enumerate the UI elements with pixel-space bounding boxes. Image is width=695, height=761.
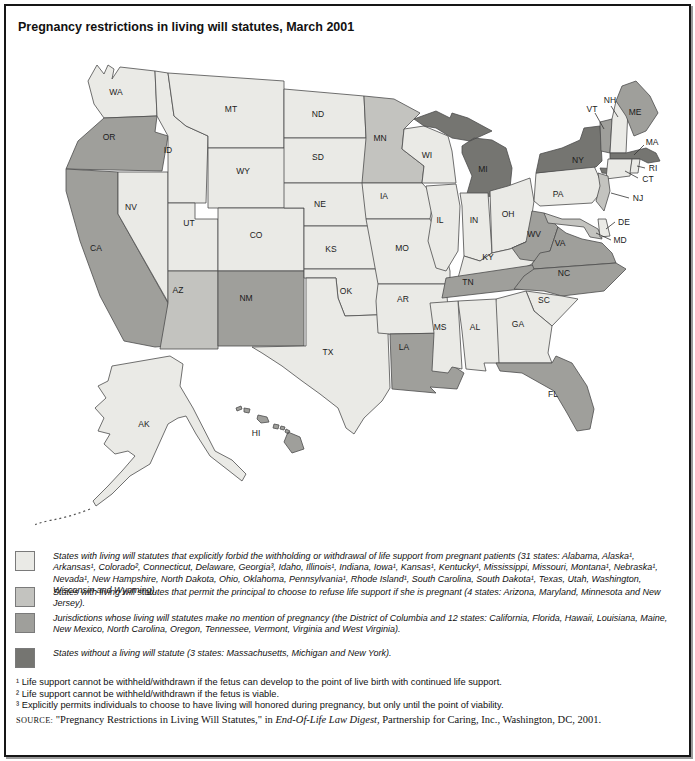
source-text-italic: End-Of-Life Law Digest bbox=[275, 714, 377, 725]
state-label-ME: ME bbox=[629, 107, 642, 117]
footnote-2: ² Life support cannot be withheld/withdr… bbox=[16, 689, 675, 701]
source-text-after: , Partnership for Caring, Inc., Washingt… bbox=[377, 714, 601, 725]
state-label-KS: KS bbox=[325, 244, 337, 254]
state-label-OR: OR bbox=[103, 132, 116, 142]
state-WY bbox=[208, 148, 294, 208]
state-AZ bbox=[160, 271, 218, 349]
state-label-LA: LA bbox=[399, 342, 410, 352]
state-IN bbox=[460, 193, 492, 261]
state-label-PA: PA bbox=[553, 189, 564, 199]
state-label-WY: WY bbox=[236, 166, 250, 176]
state-label-CO: CO bbox=[250, 230, 263, 240]
state-label-MO: MO bbox=[395, 243, 409, 253]
state-label-OK: OK bbox=[340, 286, 353, 296]
us-choropleth-map: WAORCANVIDMTWYUTCOAZNMNDSDNEKSOKTXMNIAMO… bbox=[6, 52, 689, 536]
legend-swatch-no-statute bbox=[15, 648, 35, 668]
state-label-SD: SD bbox=[312, 152, 324, 162]
state-label-GA: GA bbox=[512, 319, 525, 329]
state-label-SC: SC bbox=[538, 295, 550, 305]
state-label-IN: IN bbox=[470, 215, 479, 225]
state-label-IL: IL bbox=[436, 215, 443, 225]
footnote-3: ³ Explicitly permits individuals to choo… bbox=[16, 700, 675, 712]
state-label-NC: NC bbox=[558, 268, 570, 278]
state-label-TN: TN bbox=[462, 277, 473, 287]
legend-swatch-permit-refusal bbox=[15, 587, 35, 607]
state-AL bbox=[458, 299, 499, 371]
state-label-VT: VT bbox=[587, 104, 598, 114]
state-label-TX: TX bbox=[323, 347, 334, 357]
state-label-AL: AL bbox=[470, 322, 481, 332]
figure-frame: Pregnancy restrictions in living will st… bbox=[4, 4, 691, 757]
state-label-MN: MN bbox=[373, 133, 386, 143]
state-label-HI: HI bbox=[252, 428, 261, 438]
state-label-MI: MI bbox=[478, 164, 487, 174]
state-label-NM: NM bbox=[239, 293, 252, 303]
state-label-AK: AK bbox=[138, 419, 150, 429]
state-label-CA: CA bbox=[90, 243, 102, 253]
state-MS bbox=[430, 301, 462, 373]
state-label-NE: NE bbox=[314, 199, 326, 209]
state-label-NJ: NJ bbox=[633, 193, 643, 203]
state-SD bbox=[284, 138, 372, 183]
legend-swatch-no-mention bbox=[15, 613, 35, 633]
state-label-ND: ND bbox=[312, 109, 324, 119]
state-DE bbox=[598, 219, 610, 237]
state-label-WV: WV bbox=[527, 229, 541, 239]
state-label-MA: MA bbox=[646, 137, 659, 147]
state-label-NV: NV bbox=[125, 202, 137, 212]
state-label-OH: OH bbox=[502, 209, 515, 219]
aleutian-islands-chain bbox=[34, 509, 90, 525]
us-map-svg: WAORCANVIDMTWYUTCOAZNMNDSDNEKSOKTXMNIAMO… bbox=[6, 52, 689, 536]
state-label-UT: UT bbox=[183, 218, 194, 228]
state-UT bbox=[168, 203, 218, 271]
legend-swatch-forbid bbox=[15, 551, 35, 571]
state-FL bbox=[496, 356, 594, 431]
state-label-WI: WI bbox=[422, 150, 432, 160]
footnote-1: ¹ Life support cannot be withheld/withdr… bbox=[16, 677, 675, 689]
state-ND bbox=[284, 89, 366, 138]
state-label-CT: CT bbox=[642, 174, 653, 184]
state-label-FL: FL bbox=[548, 389, 558, 399]
legend-text-no-mention: Jurisdictions whose living will statutes… bbox=[53, 613, 675, 636]
source-label: SOURCE: bbox=[16, 716, 53, 725]
state-IA bbox=[362, 183, 434, 219]
state-label-NH: NH bbox=[604, 95, 616, 105]
state-label-IA: IA bbox=[380, 191, 388, 201]
state-NM bbox=[218, 271, 304, 346]
state-AK bbox=[93, 356, 246, 506]
state-label-MD: MD bbox=[613, 235, 626, 245]
legend-text-no-statute: States without a living will statute (3 … bbox=[53, 648, 675, 659]
state-label-ID: ID bbox=[164, 145, 173, 155]
state-label-AZ: AZ bbox=[173, 285, 184, 295]
state-label-NY: NY bbox=[572, 155, 584, 165]
state-label-KY: KY bbox=[482, 252, 494, 262]
state-HI bbox=[236, 406, 304, 453]
state-label-DE: DE bbox=[618, 217, 630, 227]
state-label-RI: RI bbox=[649, 163, 658, 173]
state-label-MS: MS bbox=[434, 322, 447, 332]
state-label-VA: VA bbox=[555, 238, 566, 248]
figure-page: Pregnancy restrictions in living will st… bbox=[0, 0, 695, 761]
source-line: SOURCE: "Pregnancy Restrictions in Livin… bbox=[16, 714, 675, 725]
footnotes: ¹ Life support cannot be withheld/withdr… bbox=[16, 677, 675, 712]
state-CT bbox=[606, 159, 632, 179]
state-label-MT: MT bbox=[225, 104, 237, 114]
source-text-before: "Pregnancy Restrictions in Living Will S… bbox=[53, 714, 275, 725]
state-label-WA: WA bbox=[109, 87, 123, 97]
figure-title: Pregnancy restrictions in living will st… bbox=[18, 20, 354, 34]
state-OR bbox=[66, 116, 168, 171]
state-label-AR: AR bbox=[397, 294, 409, 304]
legend-text-permit-refusal: States with living will statutes that pe… bbox=[53, 587, 675, 610]
